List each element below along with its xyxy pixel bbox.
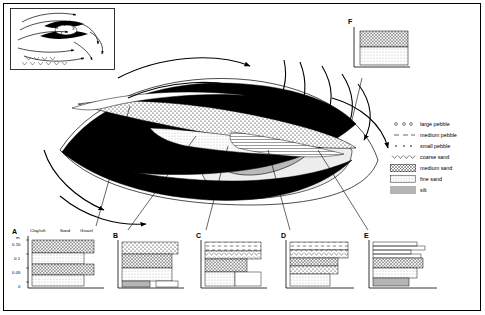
log-a-tick: 0.1 — [14, 257, 20, 261]
coarse-sand-icon — [390, 153, 416, 161]
fine-sand-icon — [390, 175, 416, 183]
legend-item: medium pebble — [390, 129, 478, 140]
legend-label: medium sand — [420, 165, 452, 171]
legend-label: fine sand — [420, 176, 442, 182]
log-f-column — [352, 27, 414, 75]
log-f-label: F — [348, 18, 352, 25]
log-a-tick: 0.05 — [12, 271, 21, 275]
log-e-label: E — [364, 232, 369, 239]
figure-root: 1 2 3 4 5 6 large pebble medium pebble — [0, 0, 485, 315]
log-c-column — [199, 240, 271, 296]
log-a-label: A — [12, 228, 17, 235]
log-a-column — [26, 236, 108, 294]
log-a-header-claysilt: Clay/silt — [30, 229, 45, 233]
log-c-label: C — [196, 232, 201, 239]
log-a-axis-unit: m — [16, 236, 20, 240]
small-pebble-icon — [390, 142, 416, 150]
legend-item: fine sand — [390, 173, 478, 184]
silt-icon — [390, 186, 416, 194]
legend-item: silt — [390, 184, 478, 195]
medium-sand-icon — [390, 164, 416, 172]
log-d-column — [284, 240, 358, 296]
flow-inset-map: 1 2 3 4 5 6 — [10, 8, 115, 70]
log-a-header-gravel: Gravel — [80, 229, 93, 233]
log-b-label: B — [113, 232, 118, 239]
log-a-tick: 0 — [18, 285, 20, 289]
legend-item: large pebble — [390, 118, 478, 129]
legend-label: coarse sand — [420, 154, 449, 160]
legend: large pebble medium pebble small pebble — [390, 118, 478, 195]
legend-label: silt — [420, 187, 427, 193]
legend-item: medium sand — [390, 162, 478, 173]
log-a-header-sand: Sand — [60, 229, 70, 233]
legend-label: small pebble — [420, 143, 450, 149]
legend-item: small pebble — [390, 140, 478, 151]
log-b-column — [116, 240, 188, 296]
log-e-column — [367, 240, 441, 296]
large-pebble-icon — [390, 120, 416, 128]
legend-label: medium pebble — [420, 132, 457, 138]
legend-item: coarse sand — [390, 151, 478, 162]
log-d-label: D — [281, 232, 286, 239]
log-a-tick: 0.15 — [12, 243, 21, 247]
medium-pebble-icon — [390, 131, 416, 139]
legend-label: large pebble — [420, 121, 450, 127]
